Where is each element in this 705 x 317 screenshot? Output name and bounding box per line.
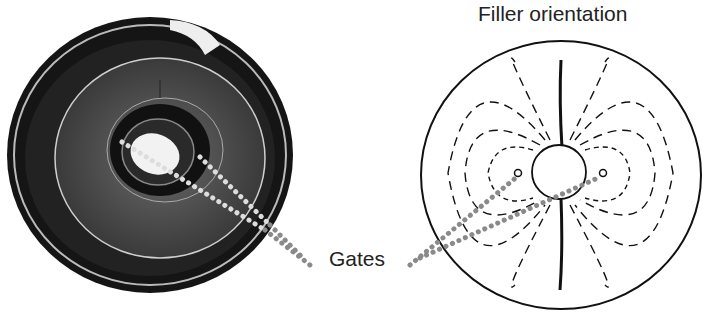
molded-part-photo bbox=[7, 17, 293, 293]
gates-label: Gates bbox=[329, 247, 385, 271]
filler-orientation-schematic bbox=[421, 41, 701, 309]
figure: Filler orientation Gates bbox=[0, 0, 705, 317]
diagram-title: Filler orientation bbox=[478, 2, 627, 26]
